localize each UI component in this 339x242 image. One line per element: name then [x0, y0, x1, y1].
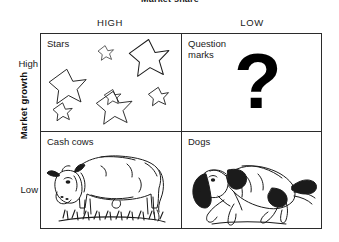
- quadrant-cash-cows[interactable]: Cash cows: [41, 132, 181, 229]
- quadrant-stars[interactable]: Stars: [41, 34, 181, 131]
- row-header-low: Low: [8, 184, 38, 195]
- question-mark-icon: ?: [234, 36, 282, 126]
- quadrant-dogs[interactable]: Dogs: [182, 132, 322, 229]
- quadrant-label-dogs: Dogs: [188, 136, 210, 147]
- quadrant-label-cash-cows: Cash cows: [47, 136, 93, 147]
- matrix-grid: Stars Question marks ? Cash cows: [40, 33, 322, 229]
- dog-icon: [182, 142, 322, 229]
- quadrant-label-question-marks: Question marks: [188, 38, 226, 60]
- column-header-low: LOW: [214, 17, 290, 28]
- quadrant-question-marks[interactable]: Question marks ?: [182, 34, 322, 131]
- column-header-high: HIGH: [72, 17, 148, 28]
- y-axis-label: Market growth: [18, 61, 29, 151]
- cow-icon: [41, 142, 181, 229]
- page-title: Market share: [110, 0, 230, 4]
- row-header-high: High: [8, 58, 38, 69]
- growth-share-matrix-figure: Market share HIGH LOW Market growth High…: [0, 0, 339, 242]
- quadrant-label-stars: Stars: [47, 38, 69, 49]
